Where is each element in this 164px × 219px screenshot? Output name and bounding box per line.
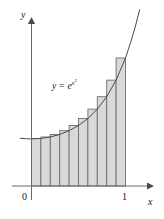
curve-equation-base: y = e (52, 81, 72, 91)
riemann-rectangle (50, 134, 59, 186)
y-axis-arrowhead (28, 17, 35, 24)
x-axis-arrowhead (147, 182, 154, 189)
riemann-rectangle (60, 131, 69, 186)
x-tick-label-0: 0 (22, 192, 27, 202)
bars-group (32, 58, 126, 186)
curve-exponent-power: 2 (74, 78, 77, 83)
riemann-rectangle (79, 119, 88, 186)
y-axis-label: y (21, 10, 25, 20)
riemann-rectangles (32, 58, 126, 186)
x-axis-label: x (148, 197, 152, 207)
riemann-rectangle (97, 97, 106, 186)
riemann-rectangle (69, 126, 78, 186)
riemann-rectangle (107, 80, 116, 186)
curve-equation-exponent: x2 (72, 79, 77, 86)
riemann-rectangle (32, 138, 41, 186)
riemann-rectangle (88, 109, 97, 186)
riemann-sum-figure: y x 0 1 y = ex2 (0, 0, 164, 219)
plot-canvas (0, 0, 164, 219)
x-tick-label-1: 1 (122, 192, 127, 202)
curve-equation-label: y = ex2 (52, 78, 77, 92)
riemann-rectangle (41, 137, 50, 186)
